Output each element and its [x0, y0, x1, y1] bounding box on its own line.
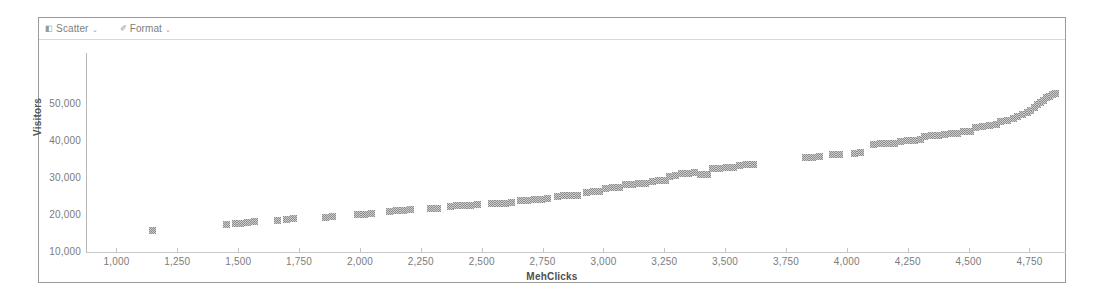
- scatter-point: [354, 211, 361, 218]
- chevron-down-icon: ⌄: [92, 26, 98, 33]
- x-axis-tick-label: 2,500: [469, 256, 495, 267]
- scatter-point: [836, 151, 843, 158]
- chart-toolbar: ◧ Scatter ⌄ ✐ Format ⌄: [39, 18, 1065, 40]
- y-gridline: [86, 216, 1066, 217]
- x-axis-tick-label: 1,000: [103, 256, 129, 267]
- x-axis-tick-label: 1,750: [286, 256, 312, 267]
- y-axis-tick-label: 30,000: [49, 171, 81, 182]
- scatter-point: [251, 218, 258, 225]
- x-axis-tick-label: 3,500: [712, 256, 738, 267]
- chart-panel: ◧ Scatter ⌄ ✐ Format ⌄ Visitors 10,00020…: [38, 17, 1066, 283]
- scatter-point: [857, 149, 864, 156]
- scatter-point: [274, 217, 281, 224]
- chart-type-dropdown[interactable]: ◧ Scatter ⌄: [45, 23, 98, 34]
- plot-frame: [86, 53, 1066, 253]
- scatter-point: [508, 199, 515, 206]
- x-axis-tick-label: 2,000: [347, 256, 373, 267]
- x-axis-tick-label: 3,750: [773, 256, 799, 267]
- y-axis-tick-label: 20,000: [49, 208, 81, 219]
- y-axis-tick-label: 40,000: [49, 134, 81, 145]
- y-axis-tick-labels: 10,00020,00030,00040,00050,000: [31, 53, 81, 253]
- scatter-point: [544, 195, 551, 202]
- chevron-down-icon: ⌄: [165, 26, 171, 33]
- x-axis-line: [86, 252, 1066, 253]
- scatter-point: [434, 205, 441, 212]
- scatter-point: [290, 215, 297, 222]
- format-label: Format: [130, 23, 162, 34]
- y-axis-tick-label: 50,000: [49, 97, 81, 108]
- x-axis-tick-label: 4,250: [895, 256, 921, 267]
- y-axis-line: [86, 53, 87, 253]
- scatter-point: [427, 205, 434, 212]
- format-brush-icon: ✐: [120, 25, 127, 33]
- scatter-point: [386, 208, 393, 215]
- scatter-point: [407, 206, 414, 213]
- scatter-plot-area: [86, 53, 1066, 253]
- x-axis-tick-label: 2,750: [530, 256, 556, 267]
- y-gridline: [86, 68, 1066, 69]
- x-axis-tick-labels: 1,0001,2501,5001,7502,0002,2502,5002,750…: [86, 256, 1066, 272]
- scatter-point: [750, 161, 757, 168]
- x-axis-tick-label: 3,000: [590, 256, 616, 267]
- x-axis-title: MehClicks: [39, 271, 1065, 282]
- x-axis-tick-label: 3,250: [651, 256, 677, 267]
- scatter-point: [474, 201, 481, 208]
- scatter-point: [1052, 90, 1059, 97]
- y-gridline: [86, 179, 1066, 180]
- x-axis-tick-label: 2,250: [408, 256, 434, 267]
- x-axis-tick-label: 1,250: [164, 256, 190, 267]
- chart-type-label: Scatter: [56, 23, 88, 34]
- scatter-point: [574, 192, 581, 199]
- format-dropdown[interactable]: ✐ Format ⌄: [120, 23, 172, 34]
- x-axis-tick-label: 4,000: [834, 256, 860, 267]
- x-axis-tick-label: 4,500: [956, 256, 982, 267]
- scatter-point: [223, 221, 230, 228]
- x-axis-tick-label: 4,750: [1016, 256, 1042, 267]
- scatter-point: [329, 213, 336, 220]
- y-gridline: [86, 105, 1066, 106]
- scatter-point: [368, 210, 375, 217]
- scatter-point: [816, 153, 823, 160]
- chart-type-icon: ◧: [45, 25, 53, 33]
- x-axis-tick-label: 1,500: [225, 256, 251, 267]
- scatter-point: [149, 227, 156, 234]
- y-axis-tick-label: 10,000: [49, 245, 81, 256]
